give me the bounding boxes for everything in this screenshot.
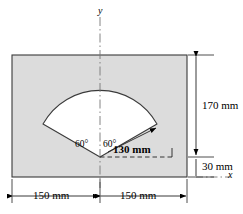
width-150-right-label: 150 mm — [120, 190, 156, 201]
width-150-left-label: 150 mm — [33, 190, 69, 201]
height-30-label: 30 mm — [202, 161, 233, 172]
radius-label: 130 mm — [113, 144, 151, 155]
angle-label-left: 60° — [75, 140, 88, 150]
height-170-label: 170 mm — [202, 100, 238, 111]
y-axis-label: y — [98, 6, 102, 16]
